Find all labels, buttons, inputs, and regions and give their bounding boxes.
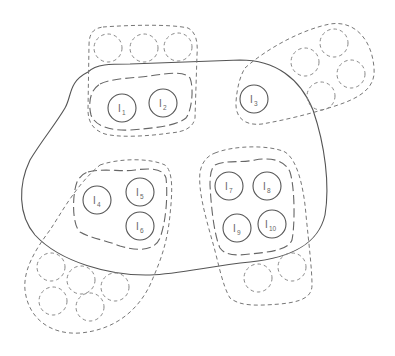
ghost-node — [37, 253, 65, 281]
ghost-node — [39, 287, 67, 315]
node-I6: I 6 — [126, 212, 154, 240]
ghost-node — [320, 29, 348, 57]
svg-text:7: 7 — [229, 187, 233, 194]
svg-text:I: I — [93, 195, 96, 206]
ghost-node — [76, 293, 104, 321]
svg-text:I: I — [136, 221, 139, 232]
ghost-node — [244, 264, 272, 292]
ghost-node — [164, 33, 192, 61]
ghost-node — [94, 34, 122, 62]
ghost-node — [130, 34, 158, 62]
node-I7: I 7 — [215, 172, 243, 200]
svg-text:10: 10 — [269, 225, 277, 232]
svg-text:I: I — [225, 181, 228, 192]
svg-text:1: 1 — [122, 109, 126, 116]
ghost-node — [337, 60, 365, 88]
node-I10: I 10 — [258, 210, 286, 238]
node-I5: I 5 — [126, 178, 154, 206]
svg-text:4: 4 — [97, 201, 101, 208]
node-I2: I 2 — [149, 89, 177, 117]
svg-text:6: 6 — [140, 227, 144, 234]
svg-text:I: I — [250, 94, 253, 105]
main-region-outline — [22, 60, 327, 275]
svg-text:I: I — [265, 219, 268, 230]
svg-text:I: I — [118, 103, 121, 114]
node-I3: I 3 — [240, 85, 268, 113]
svg-text:I: I — [159, 98, 162, 109]
cluster-diagram: I 1 I 2 I 3 I 4 I 5 I 6 I 7 I 8 I 9 — [0, 0, 395, 356]
svg-text:3: 3 — [254, 100, 258, 107]
svg-text:I: I — [233, 223, 236, 234]
svg-text:I: I — [263, 181, 266, 192]
ghost-node — [278, 253, 306, 281]
svg-text:I: I — [136, 187, 139, 198]
node-I8: I 8 — [253, 172, 281, 200]
top-group-outer-boundary — [88, 25, 197, 136]
svg-text:5: 5 — [140, 193, 144, 200]
right-bottom-group-outer-boundary — [200, 147, 312, 305]
svg-text:2: 2 — [163, 104, 167, 111]
node-I4: I 4 — [83, 186, 111, 214]
svg-text:9: 9 — [237, 229, 241, 236]
node-I1: I 1 — [108, 94, 136, 122]
ghost-node — [291, 48, 319, 76]
ghost-node — [101, 273, 129, 301]
node-I9: I 9 — [223, 214, 251, 242]
ghost-node — [67, 266, 95, 294]
ghost-node — [307, 82, 335, 110]
svg-text:8: 8 — [267, 187, 271, 194]
